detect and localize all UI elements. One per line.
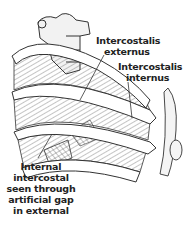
label-line: seen through: [5, 183, 77, 194]
label-line: Intercostalis: [118, 61, 182, 72]
label-line: externus: [96, 46, 160, 57]
label-line: Internal: [5, 161, 77, 172]
label-line: Intercostalis: [96, 35, 160, 46]
label-internal-intercostal-gap: Internal intercostal seen through artifi…: [5, 161, 77, 216]
label-intercostalis-externus: Intercostalis externus: [96, 35, 160, 57]
label-intercostalis-internus: Intercostalis internus: [118, 61, 182, 83]
label-line: intercostal: [5, 172, 77, 183]
label-line: in external: [5, 205, 77, 216]
intercostal-diagram: Intercostalis externus Intercostalis int…: [0, 0, 192, 226]
label-line: artificial gap: [5, 194, 77, 205]
label-line: internus: [118, 72, 182, 83]
sternum: [160, 88, 182, 176]
